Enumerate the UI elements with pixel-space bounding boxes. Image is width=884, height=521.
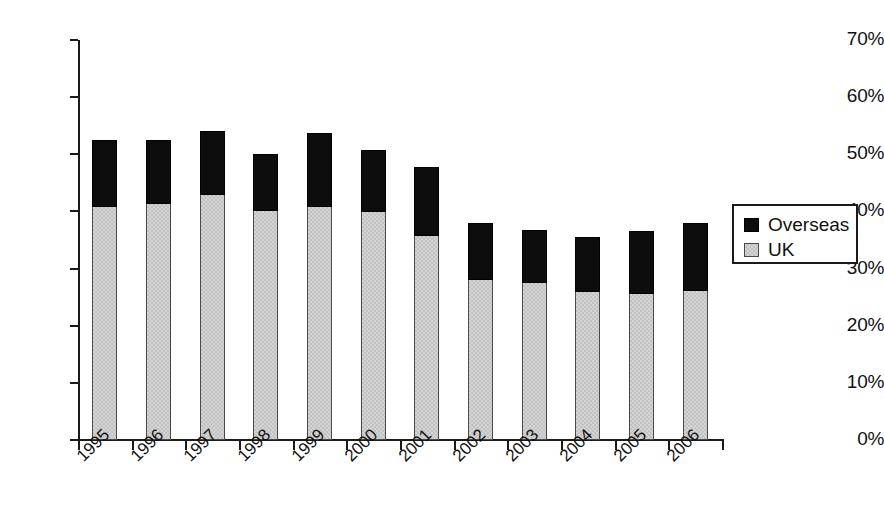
y-tick-mark [70, 439, 78, 441]
bar-segment-uk [200, 194, 225, 440]
legend-item-overseas: Overseas [744, 212, 856, 237]
bar-group [253, 40, 278, 440]
bar-segment-overseas [92, 140, 117, 207]
legend-label-overseas: Overseas [768, 215, 849, 234]
bar-segment-uk [683, 290, 708, 440]
bar-segment-overseas [683, 223, 708, 291]
bar-segment-overseas [414, 167, 439, 236]
bar-group [146, 40, 171, 440]
y-tick-label: 50% [824, 142, 884, 164]
bar-group [307, 40, 332, 440]
bar-group [575, 40, 600, 440]
bar-segment-uk [575, 291, 600, 440]
bar-segment-overseas [200, 131, 225, 195]
y-tick-mark [70, 39, 78, 41]
bar-group [683, 40, 708, 440]
bar-group [629, 40, 654, 440]
bar-group [522, 40, 547, 440]
y-tick-label: 60% [824, 85, 884, 107]
legend-label-uk: UK [768, 240, 794, 259]
bar-segment-uk [522, 282, 547, 440]
x-tick-mark [722, 441, 724, 450]
bar-segment-overseas [629, 231, 654, 294]
chart-legend: Overseas UK [732, 204, 858, 264]
black-square-icon [744, 218, 759, 232]
bar-segment-uk [92, 206, 117, 440]
bar-segment-uk [146, 203, 171, 440]
bar-segment-uk [468, 279, 493, 440]
bar-segment-overseas [307, 133, 332, 207]
bar-segment-uk [629, 293, 654, 440]
gray-square-icon [744, 243, 759, 257]
bar-segment-uk [253, 210, 278, 440]
bar-segment-overseas [575, 237, 600, 292]
bar-segment-overseas [522, 230, 547, 284]
bar-segment-uk [307, 206, 332, 440]
y-tick-mark [70, 382, 78, 384]
y-tick-mark [70, 325, 78, 327]
y-tick-label: 70% [824, 28, 884, 50]
bar-segment-uk [414, 235, 439, 440]
bar-segment-overseas [361, 150, 386, 212]
bar-group [468, 40, 493, 440]
y-tick-mark [70, 268, 78, 270]
plot-area [78, 40, 722, 440]
y-tick-mark [70, 210, 78, 212]
y-tick-label: 10% [824, 371, 884, 393]
bar-group [361, 40, 386, 440]
legend-item-uk: UK [744, 237, 856, 262]
bar-segment-overseas [253, 154, 278, 210]
bar-group [414, 40, 439, 440]
y-tick-mark [70, 153, 78, 155]
bar-group [92, 40, 117, 440]
bar-segment-overseas [468, 223, 493, 280]
y-tick-mark [70, 96, 78, 98]
bar-group [200, 40, 225, 440]
y-tick-label: 20% [824, 314, 884, 336]
bar-segment-overseas [146, 140, 171, 204]
y-tick-label: 0% [824, 428, 884, 450]
bar-segment-uk [361, 211, 386, 440]
stacked-bar-chart: 0%10%20%30%40%50%60%70% 1995199619971998… [0, 0, 884, 521]
